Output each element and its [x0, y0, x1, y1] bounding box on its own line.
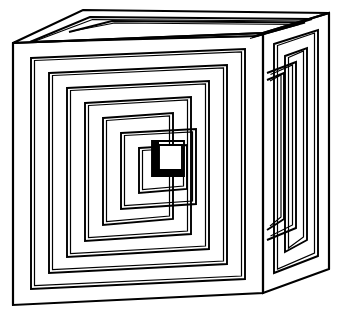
innermost-square-face	[159, 145, 182, 170]
impossible-cube-illusion: Nested cube optical illusion Line drawin…	[0, 0, 342, 318]
center-detail-group	[152, 141, 184, 176]
